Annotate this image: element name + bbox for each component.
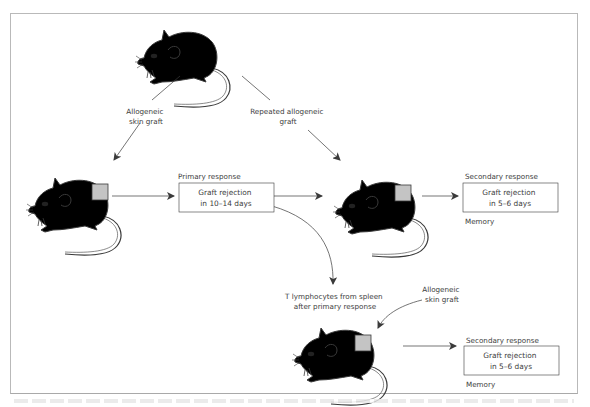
arrow-donor-to-mouse1 [114,123,140,160]
recipient-mouse-3 [292,328,387,405]
arrow-donor-to-mouse2 [308,130,340,160]
figure-caption-illegible [14,399,574,403]
label-t-lymphocytes-transfer: T lymphocytes from spleen after primary … [284,292,385,311]
primary-response-heading: Primary response [178,172,241,181]
label-allogeneic-graft-1: Allogeneic skin graft [126,107,166,126]
graft-patch-2 [395,185,411,201]
label-allogeneic-graft-2: Allogeneic skin graft [422,285,462,304]
label-repeated-allogeneic-graft: Repeated allogeneic graft [250,107,326,126]
graft-patch-3 [355,335,371,351]
memory-label-bottom: Memory [466,380,496,389]
secondary-response-heading-top: Secondary response [465,172,539,181]
arrow-donor-to-mouse2-upper [242,76,270,100]
skin-graft-rejection-diagram: g[data-name="donor-mouse"] .mbody { fill… [0,0,590,407]
memory-label-top: Memory [465,217,495,226]
arrow-graft2-to-mouse3 [378,300,422,328]
donor-mouse [135,30,230,107]
arrow-primary-to-transfer [272,206,333,284]
recipient-mouse-2 [333,180,428,257]
graft-patch-1 [92,184,108,200]
secondary-response-heading-bottom: Secondary response [466,336,540,345]
donor-graft-patch [196,42,212,58]
